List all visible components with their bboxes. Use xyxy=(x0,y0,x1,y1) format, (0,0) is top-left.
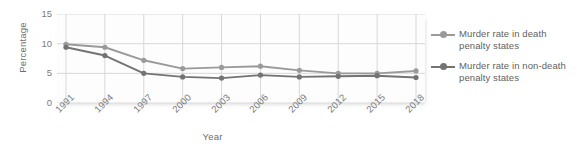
data-point xyxy=(297,68,302,73)
legend-dot-icon xyxy=(440,31,447,38)
data-series-layer xyxy=(63,42,418,81)
line-chart-figure: Percentage 051015 1991199419972000200320… xyxy=(0,0,582,149)
legend-item[interactable]: Murder rate in non-death penalty states xyxy=(431,60,579,83)
chart-legend: Murder rate in death penalty statesMurde… xyxy=(431,28,579,92)
data-point xyxy=(258,64,263,69)
data-point xyxy=(336,74,341,79)
data-point xyxy=(141,58,146,63)
data-point xyxy=(219,75,224,80)
y-tick-label: 5 xyxy=(28,68,52,78)
plot-area xyxy=(57,14,425,103)
data-point xyxy=(102,45,107,50)
y-tick-label: 10 xyxy=(28,39,52,49)
data-point xyxy=(180,66,185,71)
data-point xyxy=(413,75,418,80)
data-point xyxy=(102,53,107,58)
data-point xyxy=(297,74,302,79)
series-line-0 xyxy=(66,44,416,73)
legend-item[interactable]: Murder rate in death penalty states xyxy=(431,28,579,51)
data-point xyxy=(219,65,224,70)
legend-marker-icon xyxy=(431,61,455,73)
data-point xyxy=(141,71,146,76)
y-tick-label: 15 xyxy=(28,9,52,19)
data-point xyxy=(413,68,418,73)
legend-dot-icon xyxy=(440,63,447,70)
data-point xyxy=(258,73,263,78)
data-point xyxy=(180,74,185,79)
x-axis-title: Year xyxy=(0,131,425,142)
data-point xyxy=(63,45,68,50)
y-axis-tick-labels: 051015 xyxy=(26,0,52,149)
legend-marker-icon xyxy=(431,29,455,41)
data-point xyxy=(375,73,380,78)
legend-label: Murder rate in death penalty states xyxy=(459,28,579,51)
y-tick-label: 0 xyxy=(28,98,52,108)
legend-label: Murder rate in non-death penalty states xyxy=(459,60,579,83)
plot-svg xyxy=(57,14,425,103)
